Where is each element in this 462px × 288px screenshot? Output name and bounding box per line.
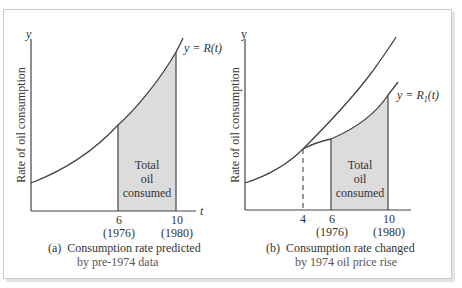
caption-letter: (a)	[48, 241, 61, 255]
panel-a-curve-label: y = R(t)	[184, 42, 222, 55]
caption-line2: by pre-1974 data	[48, 255, 201, 269]
region-label-line1: Total	[336, 158, 385, 172]
panel-b-curve-label: y = R1(t)	[397, 89, 439, 106]
panel-b-tick-6-year: (1976)	[316, 226, 348, 239]
curve-label-prefix: y = R	[397, 88, 424, 102]
caption-line2: by 1974 oil price rise	[266, 255, 415, 269]
panel-b-tick-4: 4	[300, 213, 306, 226]
region-label-line2: oil	[123, 172, 172, 186]
panel-a-t-symbol: t	[200, 205, 203, 218]
curve-label-suffix: (t)	[428, 88, 439, 102]
panel-a-y-symbol: y	[26, 28, 31, 41]
caption-letter: (b)	[266, 241, 280, 255]
panel-a-tick-10-year: (1980)	[161, 227, 193, 240]
panel-b-caption: (b) Consumption rate changed by 1974 oil…	[266, 241, 415, 269]
region-label-line1: Total	[123, 158, 172, 172]
panel-a-y-axis-label: Rate of oil consumption	[14, 67, 29, 183]
panel-b-y-symbol: y	[241, 28, 247, 41]
caption-line1: Consumption rate predicted	[67, 241, 200, 255]
panel-a-tick-6-year: (1976)	[103, 227, 135, 240]
panel-a-caption: (a) Consumption rate predicted by pre-19…	[48, 241, 201, 269]
caption-line1: Consumption rate changed	[286, 241, 415, 255]
panel-b-y-axis-label: Rate of oil consumption	[228, 67, 243, 183]
region-label-line2: oil	[336, 172, 385, 186]
region-label-line3: consumed	[336, 186, 385, 200]
panel-a-region-label: Total oil consumed	[123, 158, 172, 200]
region-label-line3: consumed	[123, 186, 172, 200]
panel-b-region-label: Total oil consumed	[336, 158, 385, 200]
panel-b-tick-10-year: (1980)	[373, 226, 405, 239]
